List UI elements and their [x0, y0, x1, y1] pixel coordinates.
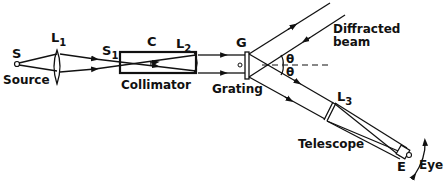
label-telescope: Telescope — [298, 137, 364, 151]
angle-arc-upper — [281, 55, 283, 65]
label-theta-upper: θ — [286, 52, 294, 66]
label-eye: Eye — [419, 158, 443, 172]
converging-rays — [60, 54, 196, 72]
label-l1: L1 — [51, 30, 66, 48]
source-rays — [19, 54, 57, 71]
lens-l1-icon — [54, 50, 60, 84]
spectrometer-diagram: S Source L1 S1 C L2 Collimator G Grating — [0, 0, 444, 181]
diffracted-beam-rays — [249, 3, 345, 77]
source-point-icon — [15, 62, 20, 67]
label-collimator: Collimator — [121, 78, 191, 92]
collimator-ray-arrow — [150, 62, 156, 63]
label-diffracted: Diffracted — [333, 22, 400, 36]
label-e: E — [397, 159, 406, 174]
label-c: C — [147, 34, 157, 49]
label-g: G — [236, 35, 247, 50]
label-source: Source — [3, 73, 50, 87]
grating-icon — [245, 52, 249, 79]
grating-pivot-icon — [238, 63, 242, 67]
lens-l3-icon — [324, 102, 336, 121]
label-s1: S1 — [102, 43, 118, 61]
label-s: S — [12, 46, 21, 61]
label-beam: beam — [333, 35, 370, 49]
label-grating: Grating — [212, 82, 263, 96]
label-l3: L3 — [337, 89, 352, 107]
